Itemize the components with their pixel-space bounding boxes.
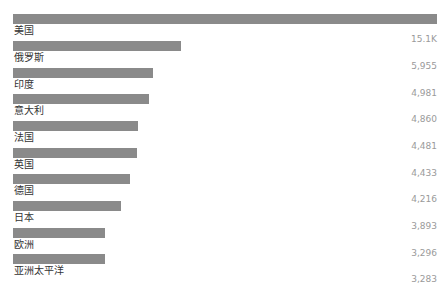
- bar-row-0: 美国 15.1K: [0, 14, 446, 41]
- category-label: 英国: [14, 159, 34, 171]
- bar-row-3: 意大利 4,860: [0, 94, 446, 121]
- bar[interactable]: [13, 228, 105, 238]
- bar[interactable]: [13, 94, 149, 104]
- bar-row-1: 俄罗斯 5,955: [0, 41, 446, 68]
- category-label: 德国: [14, 185, 34, 197]
- bar-row-7: 日本 3,893: [0, 201, 446, 228]
- bar[interactable]: [13, 121, 138, 131]
- bar[interactable]: [13, 254, 105, 264]
- category-label: 俄罗斯: [14, 52, 44, 64]
- bar-row-2: 印度 4,981: [0, 68, 446, 95]
- bar-row-4: 法国 4,481: [0, 121, 446, 148]
- category-label: 亚洲太平洋: [14, 265, 64, 277]
- category-label: 欧洲: [14, 239, 34, 251]
- horizontal-bar-chart: 美国 15.1K 俄罗斯 5,955 印度 4,981 意大利 4,860 法国…: [0, 0, 446, 292]
- category-label: 印度: [14, 79, 34, 91]
- bar-row-9: 亚洲太平洋 3,283: [0, 254, 446, 281]
- bar[interactable]: [13, 174, 130, 184]
- category-label: 意大利: [14, 105, 44, 117]
- bar[interactable]: [13, 201, 121, 211]
- bar[interactable]: [13, 148, 137, 158]
- value-label: 3,283: [411, 274, 437, 285]
- category-label: 美国: [14, 25, 34, 37]
- bar-row-6: 德国 4,216: [0, 174, 446, 201]
- bar-row-8: 欧洲 3,296: [0, 228, 446, 255]
- bar[interactable]: [13, 41, 181, 51]
- bar-row-5: 英国 4,433: [0, 148, 446, 175]
- bar[interactable]: [13, 14, 437, 24]
- category-label: 法国: [14, 132, 34, 144]
- bar[interactable]: [13, 68, 153, 78]
- category-label: 日本: [14, 212, 34, 224]
